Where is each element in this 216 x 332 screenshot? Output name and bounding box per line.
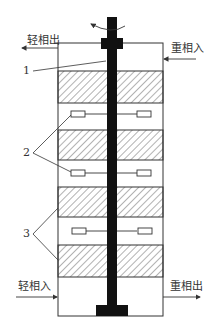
bottom-bearing (96, 305, 128, 316)
label-heavy-phase-in: 重相入 (171, 43, 204, 54)
callout-3: 3 (23, 228, 30, 239)
label-light-phase-in: 轻相入 (18, 281, 51, 292)
shaft-coupling (101, 38, 123, 49)
rotating-shaft (107, 17, 117, 309)
callout-3-leader-b (33, 234, 58, 260)
callout-3-leader-a (33, 208, 58, 234)
label-heavy-phase-out: 重相出 (170, 281, 203, 292)
label-light-phase-out: 轻相出 (27, 35, 60, 46)
callout-1-leader (33, 61, 106, 71)
callout-2: 2 (23, 147, 30, 158)
callout-1: 1 (23, 65, 30, 76)
